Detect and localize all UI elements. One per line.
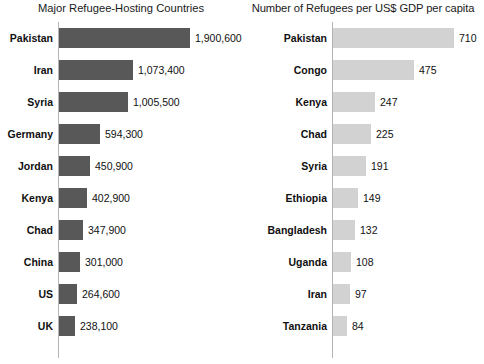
bar-value-label: 238,100 [80, 316, 118, 336]
bar-value-label: 301,000 [85, 252, 123, 272]
bar [333, 252, 351, 272]
bar-category-label: Chad [242, 124, 327, 144]
bar-row: Germany594,300 [0, 124, 242, 156]
bar-row: Kenya247 [242, 92, 484, 124]
bar-row: Jordan450,900 [0, 156, 242, 188]
plot-area-right: Pakistan710Congo475Kenya247Chad225Syria1… [242, 22, 484, 362]
bar-row: Iran1,073,400 [0, 60, 242, 92]
bar-category-label: Syria [242, 156, 327, 176]
bar-row: Bangladesh132 [242, 220, 484, 252]
bar-category-label: Syria [0, 92, 53, 112]
bar-value-label: 108 [356, 252, 374, 272]
bar [333, 220, 355, 240]
bar-category-label: UK [0, 316, 53, 336]
chart-panel-major-refugee-hosting-countries: Major Refugee-Hosting Countries Pakistan… [0, 0, 242, 364]
bar-row: China301,000 [0, 252, 242, 284]
bar-category-label: Germany [0, 124, 53, 144]
bar-row: Uganda108 [242, 252, 484, 284]
bar-row: Congo475 [242, 60, 484, 92]
bar-category-label: US [0, 284, 53, 304]
bar-value-label: 347,900 [88, 220, 126, 240]
bar-value-label: 191 [371, 156, 389, 176]
bar [59, 92, 128, 112]
bar-category-label: Pakistan [0, 28, 53, 48]
bar-category-label: Iran [0, 60, 53, 80]
bar-value-label: 132 [360, 220, 378, 240]
bar [333, 316, 347, 336]
bar-category-label: Jordan [0, 156, 53, 176]
bar-row: Pakistan710 [242, 28, 484, 60]
chart-title-left: Major Refugee-Hosting Countries [0, 1, 242, 15]
bar-row: Chad347,900 [0, 220, 242, 252]
bar-value-label: 1,073,400 [138, 60, 185, 80]
bar-row: Iran97 [242, 284, 484, 316]
bar [59, 316, 75, 336]
bar-value-label: 149 [363, 188, 381, 208]
bar-category-label: Chad [0, 220, 53, 240]
refugee-charts-figure: Major Refugee-Hosting Countries Pakistan… [0, 0, 484, 364]
bar-value-label: 710 [459, 28, 477, 48]
bar-category-label: Kenya [0, 188, 53, 208]
plot-area-left: Pakistan1,900,600Iran1,073,400Syria1,005… [0, 22, 242, 362]
bar [333, 28, 454, 48]
bar-value-label: 475 [419, 60, 437, 80]
bar-row: Chad225 [242, 124, 484, 156]
bar [59, 60, 133, 80]
bar-category-label: Iran [242, 284, 327, 304]
bar [333, 60, 414, 80]
bar-category-label: Ethiopia [242, 188, 327, 208]
bar [59, 252, 80, 272]
bar [333, 124, 371, 144]
bar-row: UK238,100 [0, 316, 242, 348]
bar-category-label: Bangladesh [242, 220, 327, 240]
bar-value-label: 225 [376, 124, 394, 144]
bar [333, 284, 350, 304]
bar [59, 28, 190, 48]
bar-value-label: 402,900 [92, 188, 130, 208]
bar-value-label: 1,900,600 [195, 28, 242, 48]
bar-row: Pakistan1,900,600 [0, 28, 242, 60]
bar-category-label: Pakistan [242, 28, 327, 48]
bar-row: Ethiopia149 [242, 188, 484, 220]
bar-category-label: Congo [242, 60, 327, 80]
bar [333, 188, 358, 208]
bar [59, 220, 83, 240]
bar-value-label: 97 [355, 284, 367, 304]
bar-category-label: Uganda [242, 252, 327, 272]
bar-row: Syria191 [242, 156, 484, 188]
bar-category-label: Tanzania [242, 316, 327, 336]
bar-row: Tanzania84 [242, 316, 484, 348]
bar-category-label: China [0, 252, 53, 272]
bar-value-label: 594,300 [105, 124, 143, 144]
bar-value-label: 264,600 [82, 284, 120, 304]
bar-row: Kenya402,900 [0, 188, 242, 220]
bar-value-label: 1,005,500 [133, 92, 180, 112]
bar-value-label: 450,900 [95, 156, 133, 176]
bar [59, 124, 100, 144]
bar-row: Syria1,005,500 [0, 92, 242, 124]
bar [59, 284, 77, 304]
bar-value-label: 84 [352, 316, 364, 336]
bar [59, 188, 87, 208]
bar-value-label: 247 [380, 92, 398, 112]
bar-category-label: Kenya [242, 92, 327, 112]
bar-row: US264,600 [0, 284, 242, 316]
chart-panel-refugees-per-gdp-per-capita: Number of Refugees per US$ GDP per capit… [242, 0, 484, 364]
chart-title-right: Number of Refugees per US$ GDP per capit… [242, 1, 484, 15]
bar [59, 156, 90, 176]
bar [333, 156, 366, 176]
bar [333, 92, 375, 112]
